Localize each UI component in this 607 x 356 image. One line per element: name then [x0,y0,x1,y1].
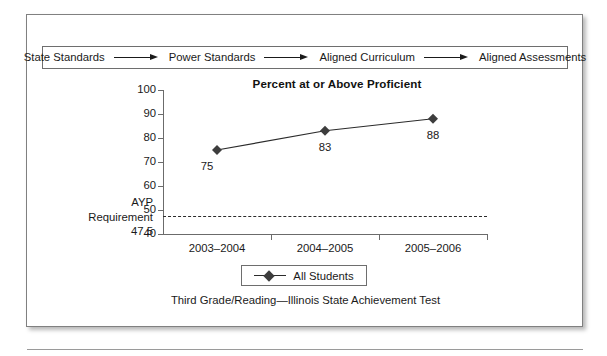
chart-plot-area: 405060708090100 2003–20042004–20052005–2… [163,90,486,234]
right-arrow-icon [424,53,470,62]
figure-frame: State Standards Power Standards Aligned … [26,14,583,327]
x-axis-label-2: 2005–2006 [379,242,487,254]
y-tick-label-50: 50 [127,203,156,215]
process-flow-strip: State Standards Power Standards Aligned … [42,46,568,69]
chart-legend: All Students [241,265,367,286]
y-tick-label-40: 40 [127,227,156,239]
data-point-marker-2 [428,114,438,124]
data-point-label-2: 88 [413,129,453,141]
data-point-marker-1 [320,126,330,136]
right-arrow-icon [114,53,160,62]
x-axis-label-1: 2004–2005 [271,242,379,254]
flow-step-state-standards: State Standards [24,52,105,63]
y-tick-label-80: 80 [127,131,156,143]
chart-caption: Third Grade/Reading—Illinois State Achie… [67,294,544,306]
legend-label-all-students: All Students [293,270,353,282]
y-tick-label-90: 90 [127,107,156,119]
data-point-marker-0 [212,145,222,155]
y-tick-label-100: 100 [127,83,156,95]
data-point-label-1: 83 [305,141,345,153]
legend-marker-diamond-icon [254,271,286,281]
data-point-label-0: 75 [187,160,227,172]
y-tick-label-70: 70 [127,155,156,167]
x-axis-label-0: 2003–2004 [163,242,271,254]
x-tick-end [487,234,488,240]
flow-step-aligned-assessments: Aligned Assessments [479,52,586,63]
flow-step-power-standards: Power Standards [169,52,256,63]
y-tick-label-60: 60 [127,179,156,191]
flow-step-aligned-curriculum: Aligned Curriculum [319,52,414,63]
chart-title: Percent at or Above Proficient [187,77,487,90]
right-arrow-icon [264,53,310,62]
page-divider-rule [27,349,583,350]
